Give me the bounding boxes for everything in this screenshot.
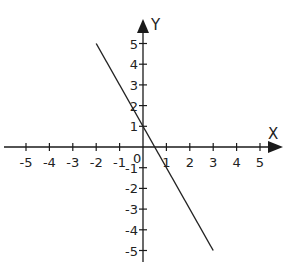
x-tick-label: 2 [186, 155, 194, 170]
x-tick-label: -3 [66, 155, 79, 170]
y-tick-label: 5 [130, 37, 138, 52]
y-tick-label: 3 [130, 78, 138, 93]
x-tick-label: 4 [232, 155, 240, 170]
x-tick-label: -5 [20, 155, 33, 170]
axes [4, 19, 283, 262]
x-tick-label: -4 [43, 155, 56, 170]
x-tick-label: 3 [209, 155, 217, 170]
origin-label: 0 [133, 151, 141, 166]
y-tick-label: 1 [130, 119, 138, 134]
x-tick-label: 5 [256, 155, 264, 170]
coordinate-plane: -5-4-3-2-11234554321-1-2-3-4-5 X Y 0 [0, 0, 293, 262]
y-tick-label: -4 [125, 223, 138, 238]
y-tick-label: -3 [125, 202, 138, 217]
x-axis-label: X [268, 125, 278, 143]
y-axis-label: Y [150, 16, 161, 34]
x-tick-label: -2 [90, 155, 103, 170]
y-tick-label: -2 [125, 181, 138, 196]
y-tick-label: 4 [130, 57, 138, 72]
y-tick-label: -5 [125, 244, 138, 259]
y-axis-arrow-icon [137, 19, 149, 33]
